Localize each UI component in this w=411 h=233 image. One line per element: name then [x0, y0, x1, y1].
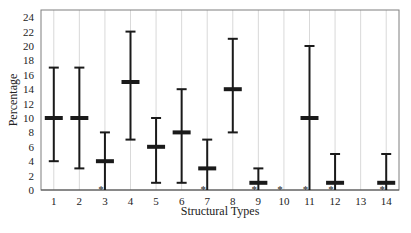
x-tick-label: 4 — [128, 195, 134, 207]
error-bar — [45, 68, 63, 162]
error-bars — [45, 32, 395, 190]
x-tick-label: 1 — [51, 195, 57, 207]
y-tick-label: 10 — [23, 112, 35, 124]
error-bar — [147, 118, 165, 183]
y-tick-label: 6 — [29, 141, 35, 153]
asterisk-marker: * — [98, 183, 104, 195]
asterisk-marker: * — [303, 183, 309, 195]
y-tick-label: 4 — [29, 155, 35, 167]
error-bar — [301, 46, 319, 190]
x-tick-label: 11 — [304, 195, 315, 207]
y-tick-label: 12 — [23, 98, 34, 110]
asterisk-marker: * — [277, 183, 283, 195]
asterisk-marker: * — [200, 183, 206, 195]
y-tick-label: 20 — [23, 40, 35, 52]
error-bar — [70, 68, 88, 169]
errorbar-chart: 024681012141618202224 123456789101112131… — [0, 0, 411, 233]
x-axis-title: Structural Types — [181, 204, 260, 218]
x-tick-label: 5 — [153, 195, 159, 207]
error-bar — [173, 89, 191, 183]
y-tick-label: 8 — [29, 126, 35, 138]
x-tick-label: 10 — [278, 195, 290, 207]
y-tick-label: 0 — [29, 184, 35, 196]
y-tick-label: 14 — [23, 83, 35, 95]
error-bar — [122, 32, 140, 140]
x-tick-label: 3 — [102, 195, 108, 207]
x-tick-label: 14 — [381, 195, 393, 207]
x-tick-label: 13 — [355, 195, 367, 207]
y-tick-label: 24 — [23, 11, 35, 23]
asterisk-marker: * — [379, 183, 385, 195]
plot-frame — [41, 10, 399, 190]
asterisk-marker: * — [328, 183, 334, 195]
error-bar — [224, 39, 242, 133]
x-tick-label: 12 — [330, 195, 341, 207]
y-tick-label: 16 — [23, 69, 35, 81]
y-tick-label: 2 — [29, 170, 35, 182]
y-tick-label: 18 — [23, 54, 35, 66]
x-tick-label: 2 — [77, 195, 83, 207]
asterisk-marker: * — [252, 183, 258, 195]
y-axis-title: Percentage — [6, 74, 20, 127]
error-bar — [96, 132, 114, 190]
y-axis-ticks: 024681012141618202224 — [23, 11, 35, 196]
y-tick-label: 22 — [23, 26, 34, 38]
